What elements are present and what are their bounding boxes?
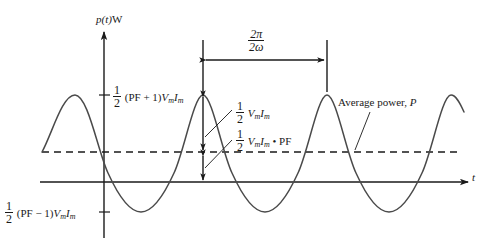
instantaneous-power-figure: p(t)W t 12 (PF + 1)VmIm 12 (PF − 1)VmIm … [0,0,487,246]
average-leader-line [355,112,370,150]
y-axis-label-unit: W [112,13,122,25]
average-power-label: Average power, P [338,97,416,109]
trough-level-label: 12 (PF − 1)VmIm [4,200,75,225]
period-fraction: 2π2ω [248,28,264,53]
trough-body: (PF − 1) [17,207,54,219]
peak-I-sub: m [178,96,184,105]
peak-body: (PF + 1) [125,91,162,103]
y-axis-label: p(t)W [96,14,122,26]
y-axis-label-t: (t) [102,13,112,25]
offset-label: 12 VmIm • PF [235,128,291,153]
period-numerator: 2π [248,28,264,40]
amplitude-I-sub: m [264,112,270,121]
amplitude-label: 12 VmIm [235,100,270,125]
average-power-symbol: P [410,96,417,108]
offset-I-sub: m [264,140,270,149]
offset-suffix: • PF [272,135,291,147]
period-label: 2π2ω [247,28,265,53]
period-denominator: 2ω [248,40,264,53]
peak-fraction: 12 [113,84,121,109]
offset-fraction: 12 [236,128,244,153]
average-power-text: Average power, [338,96,407,108]
x-axis-label: t [472,172,475,184]
trough-fraction: 12 [5,200,13,225]
amplitude-fraction: 12 [236,100,244,125]
trough-I-sub: m [70,212,76,221]
peak-level-label: 12 (PF + 1)VmIm [112,84,183,109]
